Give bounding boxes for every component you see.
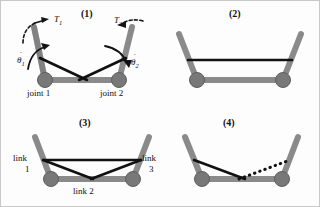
link-2-label: link 2	[73, 186, 94, 196]
panel-4: (4)	[161, 105, 320, 207]
figure-container: (1) T1 T2 ˙θ1 ˙θ2 joint 1 joint 2 (2)	[0, 0, 320, 207]
panel-2-number: (2)	[229, 8, 241, 19]
mechanism-2	[179, 34, 301, 88]
joint-2-label: joint 2	[100, 88, 123, 98]
link-3-label-line2: 3	[149, 164, 154, 174]
mechanism-4	[185, 137, 298, 187]
omega-1-arrowhead	[41, 43, 50, 50]
torque-2-label: T2	[114, 15, 122, 29]
joint-1-pivot	[38, 73, 53, 88]
mechanism-3	[35, 137, 149, 187]
link-1-label-line1: link	[13, 153, 27, 163]
joint-2-pivot	[112, 73, 127, 88]
panel-2: (2)	[161, 1, 320, 105]
joint-1-label: joint 1	[27, 88, 50, 98]
omega-2-dot-accent: ˙	[133, 53, 136, 63]
omega-1-dot-accent: ˙	[19, 51, 22, 61]
omega-1-label: ˙θ1	[17, 55, 25, 69]
joint-2-pivot	[126, 172, 141, 187]
panel-1-number: (1)	[81, 8, 93, 19]
panel-3: (3) link 1 link 3 link 2	[1, 105, 161, 207]
panel-3-number: (3)	[79, 117, 91, 128]
link-1-label-line2: 1	[25, 164, 30, 174]
joint-2-pivot	[275, 172, 290, 187]
mechanism-1	[34, 27, 132, 88]
joint-1-pivot	[44, 172, 59, 187]
panel-4-number: (4)	[223, 117, 235, 128]
torque-1-label: T1	[54, 14, 62, 28]
panel-1: (1) T1 T2 ˙θ1 ˙θ2 joint 1 joint 2	[1, 1, 161, 105]
joint-1-pivot	[190, 73, 205, 88]
joint-1-pivot	[195, 172, 210, 187]
joint-2-pivot	[276, 73, 291, 88]
link-3-label-line1: link	[142, 153, 156, 163]
omega-2-label: ˙θ2	[131, 57, 139, 71]
torque-1-arrowhead	[41, 17, 49, 23]
panel-4-diagram	[161, 105, 320, 207]
